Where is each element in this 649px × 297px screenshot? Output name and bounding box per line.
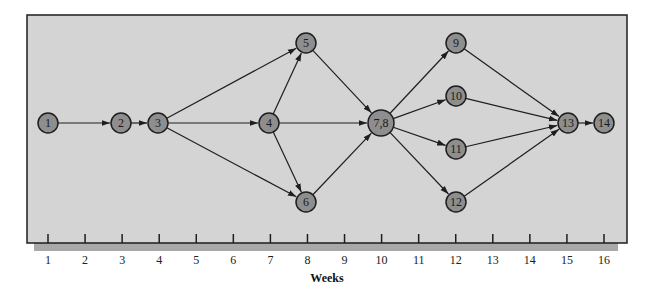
- tick-label: 6: [230, 253, 236, 267]
- node-10: 10: [446, 86, 466, 106]
- tick-label: 9: [342, 253, 348, 267]
- node-13: 13: [558, 113, 578, 133]
- tick-label: 8: [304, 253, 310, 267]
- node-label: 5: [303, 36, 309, 50]
- node-label: 9: [453, 36, 459, 50]
- tick-label: 4: [156, 253, 162, 267]
- tick-label: 10: [376, 253, 388, 267]
- node-4: 4: [259, 113, 279, 133]
- node-78: 7,8: [368, 110, 394, 136]
- network-diagram: 12345678910111213141516 Weeks 1234567,89…: [0, 0, 649, 297]
- node-label: 13: [562, 116, 574, 130]
- tick-label: 3: [119, 253, 125, 267]
- tick-label: 16: [598, 253, 610, 267]
- node-label: 11: [450, 142, 462, 156]
- panel-shadow: [34, 243, 618, 251]
- node-label: 4: [266, 116, 272, 130]
- node-9: 9: [446, 33, 466, 53]
- node-1: 1: [38, 113, 58, 133]
- node-11: 11: [446, 139, 466, 159]
- tick-label: 5: [193, 253, 199, 267]
- tick-label: 11: [413, 253, 425, 267]
- tick-label: 7: [267, 253, 273, 267]
- node-label: 3: [155, 116, 161, 130]
- node-label: 10: [450, 89, 462, 103]
- tick-label: 12: [450, 253, 462, 267]
- node-6: 6: [296, 192, 316, 212]
- axis-tick-labels: 12345678910111213141516: [45, 253, 610, 267]
- node-label: 12: [450, 195, 462, 209]
- axis-title: Weeks: [310, 271, 344, 285]
- node-label: 6: [303, 195, 309, 209]
- tick-label: 15: [561, 253, 573, 267]
- tick-label: 2: [82, 253, 88, 267]
- node-label: 1: [45, 116, 51, 130]
- node-12: 12: [446, 192, 466, 212]
- node-3: 3: [148, 113, 168, 133]
- node-label: 7,8: [374, 116, 389, 130]
- node-5: 5: [296, 33, 316, 53]
- node-label: 2: [118, 116, 124, 130]
- node-14: 14: [594, 113, 614, 133]
- tick-label: 13: [487, 253, 499, 267]
- node-label: 14: [598, 116, 610, 130]
- tick-label: 1: [45, 253, 51, 267]
- tick-label: 14: [524, 253, 536, 267]
- node-2: 2: [111, 113, 131, 133]
